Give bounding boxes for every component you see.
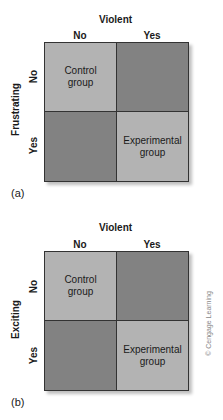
cell-text: Control — [64, 274, 96, 286]
panel-label: (a) — [11, 187, 24, 199]
cell-text: group — [64, 77, 96, 89]
cell-control-group: Controlgroup — [45, 252, 117, 321]
cell-text: group — [123, 147, 181, 159]
row-label-no: No — [28, 62, 39, 92]
panel-label: (b) — [11, 396, 24, 408]
row-title: Exciting — [10, 290, 21, 350]
column-label-no: No — [44, 239, 116, 250]
factorial-grid: Controlgroup Experimentalgroup — [44, 42, 189, 182]
column-label-yes: Yes — [116, 239, 188, 250]
cell-empty — [117, 43, 188, 112]
cell-text: Experimental — [123, 344, 181, 356]
cell-text: group — [123, 356, 181, 368]
cell-empty — [117, 252, 188, 321]
row-label-yes: Yes — [28, 131, 39, 161]
panel-b: Violent No Yes Exciting No Yes Controlgr… — [0, 210, 223, 420]
cell-text: group — [64, 286, 96, 298]
column-label-yes: Yes — [116, 30, 188, 41]
row-label-no: No — [28, 272, 39, 302]
cell-text: Control — [64, 65, 96, 77]
cell-empty — [45, 321, 117, 390]
cell-experimental-group: Experimentalgroup — [117, 112, 188, 181]
column-title: Violent — [44, 14, 187, 25]
cell-control-group: Controlgroup — [45, 43, 117, 112]
row-label-yes: Yes — [28, 341, 39, 371]
factorial-grid: Controlgroup Experimentalgroup — [44, 251, 189, 391]
cell-experimental-group: Experimentalgroup — [117, 321, 188, 390]
column-label-no: No — [44, 30, 116, 41]
cell-text: Experimental — [123, 135, 181, 147]
cell-empty — [45, 112, 117, 181]
panel-a: Violent No Yes Frustrating No Yes Contro… — [0, 0, 223, 210]
column-title: Violent — [44, 222, 187, 233]
copyright-credit: © Cengage Learning — [205, 279, 212, 369]
row-title: Frustrating — [10, 80, 21, 140]
